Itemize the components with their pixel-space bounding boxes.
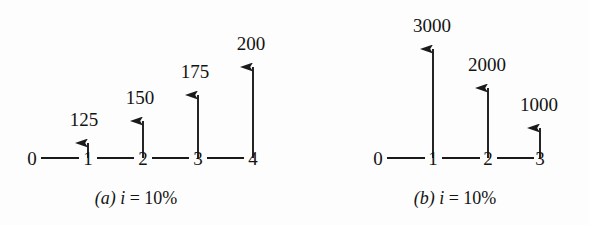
caption-a-equals: =	[130, 188, 140, 208]
caption-b-tag: (b)	[414, 188, 435, 208]
cash-flow-label-1000: 1000	[504, 95, 574, 114]
caption-a-tag: (a)	[95, 188, 116, 208]
caption-b: (b) i = 10%	[325, 188, 585, 208]
cash-flow-label-2000: 2000	[452, 55, 522, 74]
figure-cash-flow-diagrams: 0 1 2 3 4 125 150 175 200 (a) i = 10%	[0, 0, 589, 225]
tick-label-3: 3	[529, 149, 551, 168]
cash-flow-label-150: 150	[105, 88, 175, 107]
cash-flow-label-175: 175	[160, 62, 230, 81]
caption-a-rate: 10%	[144, 188, 177, 208]
caption-b-symbol: i	[439, 188, 444, 208]
cash-flow-label-125: 125	[49, 110, 119, 129]
caption-a-symbol: i	[120, 188, 125, 208]
tick-label-2: 2	[132, 149, 154, 168]
caption-a: (a) i = 10%	[6, 188, 266, 208]
cash-flow-diagram-a: 0 1 2 3 4 125 150 175 200 (a) i = 10%	[0, 0, 295, 225]
tick-label-4: 4	[242, 149, 264, 168]
cash-flow-diagram-b: 0 1 2 3 3000 2000 1000 (b) i = 10%	[295, 0, 589, 225]
cash-flow-label-200: 200	[216, 34, 286, 53]
tick-label-1: 1	[422, 149, 444, 168]
cash-flow-label-3000: 3000	[397, 16, 467, 35]
tick-label-0: 0	[367, 149, 389, 168]
tick-label-1: 1	[77, 149, 99, 168]
caption-b-equals: =	[449, 188, 459, 208]
caption-b-rate: 10%	[463, 188, 496, 208]
tick-label-0: 0	[21, 149, 43, 168]
tick-label-3: 3	[187, 149, 209, 168]
tick-label-2: 2	[477, 149, 499, 168]
